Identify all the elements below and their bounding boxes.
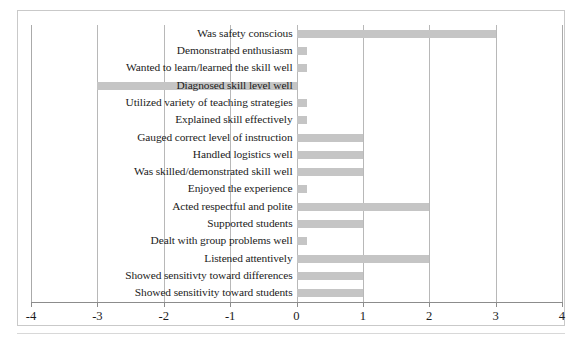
x-tick-4	[562, 302, 563, 307]
x-tick-0	[297, 302, 298, 307]
bar-chart-figure: Was safety consciousDemonstrated enthusi…	[0, 0, 583, 344]
bar	[297, 151, 363, 159]
bar	[297, 47, 307, 55]
bar-row: Was skilled/demonstrated skill well	[31, 164, 562, 181]
bar	[297, 116, 307, 124]
bar-row: Diagnosed skill level well	[31, 77, 562, 94]
bar	[297, 168, 363, 176]
bar	[297, 203, 430, 211]
bar-row: Enjoyed the experience	[31, 181, 562, 198]
bar-row: Utilized variety of teaching strategies	[31, 94, 562, 111]
category-label: Explained skill effectively	[175, 115, 292, 126]
bar	[297, 289, 363, 297]
x-tick-label--1: -1	[210, 310, 250, 323]
bar-row: Acted respectful and polite	[31, 198, 562, 215]
bar	[297, 255, 430, 263]
bar	[297, 272, 363, 280]
x-tick-label--4: -4	[11, 310, 51, 323]
category-label: Was skilled/demonstrated skill well	[134, 166, 293, 177]
x-tick-label-0: 0	[277, 310, 317, 323]
category-label: Was safety conscious	[197, 28, 292, 39]
bottom-rule	[17, 333, 565, 334]
bar-row: Showed sensitivty toward differences	[31, 267, 562, 284]
bar-row: Dealt with group problems well	[31, 233, 562, 250]
bar-row: Supported students	[31, 215, 562, 232]
bar	[297, 220, 363, 228]
category-label: Diagnosed skill level well	[176, 80, 292, 91]
x-tick-1	[363, 302, 364, 307]
bar-row: Demonstrated enthusiasm	[31, 42, 562, 59]
bar-row: Listened attentively	[31, 250, 562, 267]
x-tick--1	[230, 302, 231, 307]
x-tick--3	[97, 302, 98, 307]
category-label: Utilized variety of teaching strategies	[126, 97, 293, 108]
x-tick-2	[429, 302, 430, 307]
x-tick-label-3: 3	[476, 310, 516, 323]
x-tick-label-2: 2	[409, 310, 449, 323]
bar-row: Handled logistics well	[31, 146, 562, 163]
category-label: Enjoyed the experience	[188, 184, 293, 195]
bar-rows-group: Was safety consciousDemonstrated enthusi…	[31, 25, 562, 302]
bar-row: Explained skill effectively	[31, 112, 562, 129]
category-label: Showed sensitivity toward students	[135, 288, 293, 299]
category-label: Dealt with group problems well	[151, 236, 293, 247]
bar	[297, 134, 363, 142]
x-tick--2	[164, 302, 165, 307]
category-label: Acted respectful and polite	[172, 201, 292, 212]
bar	[297, 30, 496, 38]
bar-row: Gauged correct level of instruction	[31, 129, 562, 146]
bar	[297, 99, 307, 107]
bar	[297, 237, 307, 245]
bar-row: Showed sensitivity toward students	[31, 285, 562, 302]
category-label: Gauged correct level of instruction	[137, 132, 292, 143]
plot-area: Was safety consciousDemonstrated enthusi…	[31, 25, 562, 302]
category-label: Wanted to learn/learned the skill well	[126, 63, 292, 74]
bar-row: Was safety conscious	[31, 25, 562, 42]
category-label: Handled logistics well	[193, 149, 293, 160]
gridline-x-4	[562, 25, 563, 302]
bar	[297, 64, 307, 72]
bar-row: Wanted to learn/learned the skill well	[31, 60, 562, 77]
x-tick-label-1: 1	[343, 310, 383, 323]
bar	[297, 185, 307, 193]
x-tick--4	[31, 302, 32, 307]
category-label: Supported students	[207, 218, 292, 229]
x-tick-label--2: -2	[144, 310, 184, 323]
x-tick-3	[496, 302, 497, 307]
category-label: Showed sensitivty toward differences	[125, 270, 292, 281]
category-label: Listened attentively	[204, 253, 292, 264]
category-label: Demonstrated enthusiasm	[177, 45, 293, 56]
x-tick-label--3: -3	[77, 310, 117, 323]
x-tick-label-4: 4	[542, 310, 582, 323]
